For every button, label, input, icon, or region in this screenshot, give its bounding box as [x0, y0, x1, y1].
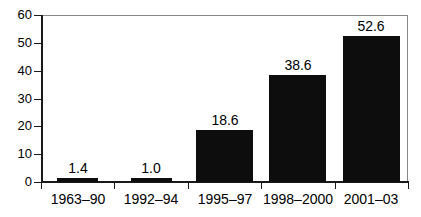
y-axis-label-text: 50: [2, 36, 32, 49]
y-axis-tick: [34, 126, 41, 127]
y-axis-label-text: 20: [2, 119, 32, 132]
x-axis-tick: [41, 183, 42, 189]
y-axis-label: 20: [0, 119, 32, 132]
category-label: 1992–94: [124, 191, 179, 207]
bar: [131, 178, 172, 182]
bar: [196, 130, 253, 182]
bar-value-label: 18.6: [211, 113, 238, 127]
y-axis-tick: [34, 154, 41, 155]
bars-layer: [41, 15, 408, 182]
bar-chart: 0102030405060 1.41.018.638.652.6 1963–90…: [0, 0, 421, 217]
y-axis-label-text: 10: [2, 147, 32, 160]
y-axis-label: 50: [0, 36, 32, 49]
x-axis-tick: [408, 183, 409, 189]
bar: [343, 36, 400, 182]
category-label: 1963–90: [51, 191, 106, 207]
y-axis-label-text: 30: [2, 92, 32, 105]
y-axis-label-text: 0: [2, 175, 32, 188]
x-axis-tick: [188, 183, 189, 189]
y-axis-label: 10: [0, 147, 32, 160]
y-axis-tick: [34, 71, 41, 72]
bar-value-label: 38.6: [284, 58, 311, 72]
bar: [57, 178, 98, 182]
category-label: 1998–2000: [263, 191, 333, 207]
y-axis-tick: [34, 182, 41, 183]
y-axis-tick: [34, 43, 41, 44]
y-axis-tick: [34, 99, 41, 100]
category-label: 1995–97: [198, 191, 253, 207]
y-axis-tick: [34, 15, 41, 16]
y-axis-label: 30: [0, 92, 32, 105]
y-axis-label: 60: [0, 8, 32, 21]
x-axis-tick: [261, 183, 262, 189]
y-axis-label-text: 40: [2, 64, 32, 77]
x-axis-tick: [114, 183, 115, 189]
y-axis-label-text: 60: [2, 8, 32, 21]
bar-value-label: 1.0: [141, 161, 160, 175]
y-axis-label: 0: [0, 175, 32, 188]
category-label: 2001–03: [344, 191, 399, 207]
x-axis-tick: [335, 183, 336, 189]
bar-value-label: 52.6: [357, 19, 384, 33]
y-axis-label: 40: [0, 64, 32, 77]
bar-value-label: 1.4: [68, 161, 87, 175]
bar: [269, 75, 326, 182]
